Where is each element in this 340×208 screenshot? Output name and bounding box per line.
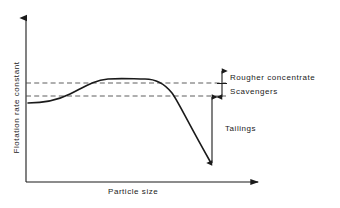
annotation-rougher-concentrate: Rougher concentrate bbox=[230, 73, 315, 82]
plot-canvas bbox=[0, 0, 340, 208]
annotation-scavengers: Scavengers bbox=[230, 87, 278, 96]
y-axis-label: Flotation rate constant bbox=[12, 48, 21, 168]
flotation-rate-curve bbox=[28, 79, 211, 163]
annotation-tailings: Tailings bbox=[225, 124, 256, 133]
flotation-rate-figure: Flotation rate constant Particle size Ro… bbox=[0, 0, 340, 208]
x-axis-label: Particle size bbox=[108, 187, 158, 196]
